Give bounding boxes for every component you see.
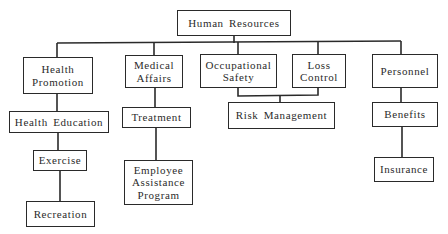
- node-benefits: Benefits: [372, 102, 438, 127]
- node-label: Health: [42, 63, 75, 76]
- node-exercise: Exercise: [33, 150, 87, 171]
- node-label: Control: [300, 71, 338, 84]
- node-label: Risk Management: [236, 109, 327, 122]
- node-label: Insurance: [380, 163, 428, 176]
- node-label: Safety: [223, 71, 255, 84]
- node-recreation: Recreation: [26, 201, 95, 227]
- node-label: Human Resources: [188, 17, 279, 30]
- node-label: Exercise: [39, 154, 82, 167]
- node-loss-control: Loss Control: [292, 54, 346, 88]
- node-label: Health Education: [15, 116, 103, 129]
- node-label: Occupational: [206, 59, 272, 72]
- node-medical-affairs: Medical Affairs: [125, 55, 183, 88]
- node-label: Employee: [134, 164, 183, 177]
- node-label: Medical: [134, 59, 174, 72]
- node-health-promotion: Health Promotion: [23, 57, 93, 94]
- node-label: Program: [137, 189, 179, 202]
- node-label: Personnel: [381, 65, 430, 78]
- node-label: Treatment: [131, 111, 181, 124]
- node-employee-assistance-program: Employee Assistance Program: [124, 160, 193, 205]
- node-risk-management: Risk Management: [228, 102, 335, 129]
- node-label: Benefits: [384, 108, 425, 121]
- node-treatment: Treatment: [122, 107, 191, 128]
- node-label: Affairs: [136, 72, 171, 85]
- node-label: Assistance: [132, 176, 185, 189]
- node-label: Recreation: [34, 208, 88, 221]
- node-insurance: Insurance: [374, 157, 434, 182]
- org-chart: Human Resources Health Promotion Medical…: [0, 0, 448, 234]
- node-health-education: Health Education: [9, 111, 109, 133]
- node-label: Loss: [307, 59, 330, 72]
- node-occupational-safety: Occupational Safety: [200, 54, 277, 88]
- node-label: Promotion: [32, 76, 84, 89]
- node-human-resources: Human Resources: [177, 10, 291, 36]
- node-personnel: Personnel: [372, 54, 438, 88]
